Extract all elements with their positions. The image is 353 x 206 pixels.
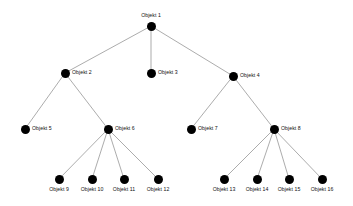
tree-node[interactable] (253, 175, 262, 184)
tree-node-label: Objekt 1 (141, 13, 161, 18)
tree-node[interactable] (154, 175, 163, 184)
tree-node-label: Objekt 11 (113, 187, 135, 192)
tree-node[interactable] (21, 125, 30, 134)
tree-node-label: Objekt 2 (72, 70, 92, 75)
tree-node-label: Objekt 5 (32, 126, 52, 131)
tree-node[interactable] (270, 125, 279, 134)
tree-node[interactable] (120, 175, 129, 184)
tree-edge (257, 129, 274, 179)
tree-edge (65, 73, 108, 129)
tree-node[interactable] (147, 69, 156, 78)
tree-edge (25, 73, 65, 129)
tree-edge (224, 129, 274, 179)
tree-node-label: Objekt 14 (246, 187, 269, 192)
tree-node[interactable] (318, 175, 327, 184)
tree-node[interactable] (285, 175, 294, 184)
tree-diagram: Objekt 1Objekt 2Objekt 3Objekt 4Objekt 5… (0, 0, 353, 206)
tree-node-label: Objekt 7 (198, 126, 218, 131)
tree-node-label: Objekt 6 (115, 126, 135, 131)
tree-edge (108, 129, 124, 179)
edge-layer (0, 0, 353, 206)
tree-node-label: Objekt 3 (158, 70, 178, 75)
tree-node[interactable] (229, 72, 238, 81)
tree-edge (92, 129, 108, 179)
tree-node-label: Objekt 15 (278, 187, 301, 192)
tree-node[interactable] (55, 175, 64, 184)
tree-node-label: Objekt 10 (81, 187, 104, 192)
tree-node-label: Objekt 9 (49, 187, 69, 192)
tree-node-label: Objekt 4 (240, 73, 260, 78)
tree-node[interactable] (104, 125, 113, 134)
tree-edge (191, 76, 233, 129)
tree-node[interactable] (147, 22, 156, 31)
tree-node-label: Objekt 12 (147, 187, 170, 192)
tree-node[interactable] (61, 69, 70, 78)
tree-edge (65, 26, 151, 73)
tree-node-label: Objekt 8 (281, 126, 301, 131)
tree-node[interactable] (88, 175, 97, 184)
tree-node[interactable] (220, 175, 229, 184)
tree-edge (59, 129, 108, 179)
tree-node[interactable] (187, 125, 196, 134)
tree-node-label: Objekt 13 (213, 187, 236, 192)
tree-node-label: Objekt 16 (311, 187, 334, 192)
tree-edge (108, 129, 158, 179)
tree-edge (233, 76, 274, 129)
